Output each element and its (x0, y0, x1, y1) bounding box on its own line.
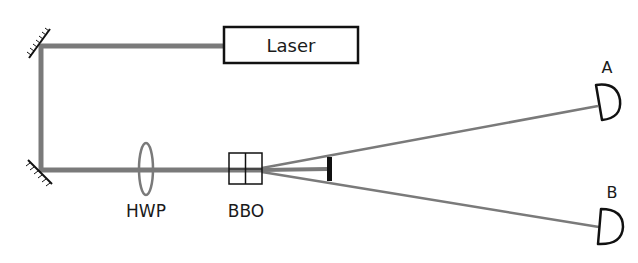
detector-b: B (598, 183, 623, 244)
detector-a: A (596, 58, 620, 120)
laser-label: Laser (267, 35, 317, 56)
beam-to-detector-a (262, 106, 598, 168)
beam-block (327, 157, 332, 181)
beam-pump-to-block (262, 169, 328, 170)
hwp-label: HWP (126, 201, 166, 221)
bbo-label: BBO (228, 201, 264, 221)
detector-a-icon (596, 85, 620, 120)
detector-b-label: B (607, 183, 618, 202)
bbo-crystal: BBO (228, 153, 264, 221)
beam-path (39, 44, 599, 227)
laser: Laser (224, 27, 358, 63)
beam-to-detector-b (262, 172, 599, 227)
optical-setup-diagram: Laser HWP B (0, 0, 638, 263)
half-wave-plate: HWP (126, 143, 166, 221)
detector-a-label: A (602, 58, 613, 77)
detector-b-icon (598, 209, 623, 244)
